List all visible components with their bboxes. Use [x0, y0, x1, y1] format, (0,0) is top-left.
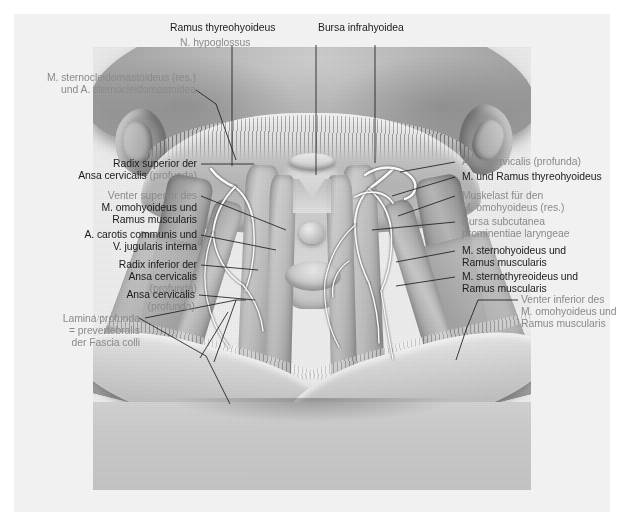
label-line: Lamina profunda	[8, 313, 140, 325]
label-venter-inferior-omohyoideus: Venter inferior des M. omohyoideus und R…	[521, 294, 617, 330]
label-m-und-ramus-thyreohyoideus: M. und Ramus thyreohyoideus	[462, 171, 602, 183]
label-line: (profunda)	[8, 301, 195, 313]
label-muskelast-omohyoideus: Muskelast für den M. omohyoideus (res.)	[462, 190, 564, 214]
label-line: Ramus thyreohyoideus	[170, 22, 275, 34]
label-m-sternocleidomastoideus: M. sternocleidomastoideus (res.) und A. …	[8, 72, 196, 96]
label-a-carotis-communis: A. carotis communis und V. jugularis int…	[8, 229, 197, 253]
label-line: M. omohyoideus und	[521, 306, 617, 318]
label-line: = prevertebralis	[8, 325, 140, 337]
label-line: M. und Ramus thyreohyoideus	[462, 171, 602, 183]
label-line: M. omohyoideus (res.)	[462, 202, 564, 214]
label-line: A. carotis communis und	[8, 229, 197, 241]
label-n-hypoglossus: N. hypoglossus	[180, 37, 250, 49]
label-line: Radix inferior der	[8, 259, 197, 271]
label-line: Ansa cervicalis (profunda)	[462, 156, 581, 168]
label-line-main: Ansa cervicalis	[78, 170, 149, 181]
label-ansa-cervicalis-profunda-right: Ansa cervicalis (profunda)	[462, 156, 581, 168]
label-line: Bursa infrahyoidea	[318, 22, 404, 34]
label-line: Ramus muscularis	[521, 318, 617, 330]
label-ansa-cervicalis: Ansa cervicalis (profunda)	[8, 289, 195, 313]
label-line: V. jugularis interna	[8, 241, 197, 253]
label-line: Ansa cervicalis (profunda)	[8, 170, 197, 182]
label-line: M. sternothyreoideus und	[462, 271, 578, 283]
label-lamina-profunda-fascia-colli: Lamina profunda = prevertebralis der Fas…	[8, 313, 140, 349]
label-line: Radix superior der	[8, 158, 197, 170]
label-bursa-subcutanea-prominentiae-laryngeae: Bursa subcutanea prominentiae laryngeae	[462, 216, 570, 240]
label-line: Ramus muscularis	[8, 214, 197, 226]
label-line: und A. sternocleidomastoidea	[8, 84, 196, 96]
label-line: M. sternohyoideus und	[462, 245, 566, 257]
label-line: M. sternocleidomastoideus (res.)	[8, 72, 196, 84]
label-line: Ansa cervicalis	[8, 289, 195, 301]
anatomy-plate: Ramus thyreohyoideus N. hypoglossus Burs…	[0, 0, 624, 528]
label-line-qualifier: (profunda)	[150, 170, 197, 181]
label-line: Muskelast für den	[462, 190, 564, 202]
label-line: M. omohyoideus und	[8, 202, 197, 214]
label-radix-superior-ansa-cervicalis: Radix superior der Ansa cervicalis (prof…	[8, 158, 197, 182]
label-m-sternohyoideus: M. sternohyoideus und Ramus muscularis	[462, 245, 566, 269]
label-line: Venter superior des	[8, 190, 197, 202]
label-line: N. hypoglossus	[180, 37, 250, 49]
label-line: Bursa subcutanea	[462, 216, 570, 228]
label-line: der Fascia colli	[8, 337, 140, 349]
label-line: Venter inferior des	[521, 294, 617, 306]
label-line: Ansa cervicalis	[8, 271, 197, 283]
label-line: prominentiae laryngeae	[462, 228, 570, 240]
label-m-sternothyreoideus: M. sternothyreoideus und Ramus musculari…	[462, 271, 578, 295]
label-ramus-thyreohyoideus: Ramus thyreohyoideus	[170, 22, 275, 34]
label-venter-superior-omohyoideus: Venter superior des M. omohyoideus und R…	[8, 190, 197, 226]
label-bursa-infrahyoidea: Bursa infrahyoidea	[318, 22, 404, 34]
label-line: Ramus muscularis	[462, 257, 566, 269]
